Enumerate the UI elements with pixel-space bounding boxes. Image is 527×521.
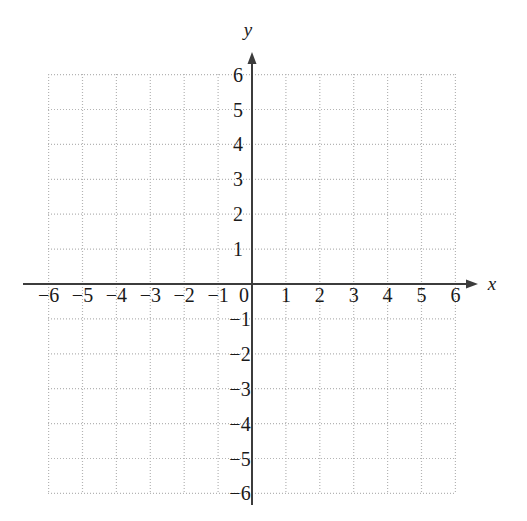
coordinate-plane-figure: −6−5−4−3−2−10123456 654321−1−2−3−4−5−6 x… xyxy=(0,0,527,521)
x-tick-label: 5 xyxy=(417,284,427,306)
coordinate-plane-canvas: −6−5−4−3−2−10123456 654321−1−2−3−4−5−6 x… xyxy=(0,0,527,521)
figure-background xyxy=(0,0,527,521)
y-tick-label: 6 xyxy=(233,64,243,86)
y-tick-label: −5 xyxy=(229,448,250,470)
x-tick-label: 3 xyxy=(349,284,359,306)
y-tick-label: −2 xyxy=(229,343,250,365)
x-tick-label: 2 xyxy=(315,284,325,306)
origin-tick-label: 0 xyxy=(239,284,249,306)
y-tick-label: 5 xyxy=(233,99,243,121)
x-axis-label: x xyxy=(487,273,497,294)
x-tick-label: 6 xyxy=(450,284,460,306)
y-tick-label: −1 xyxy=(229,308,250,330)
y-tick-label: 2 xyxy=(233,203,243,225)
y-tick-label: 3 xyxy=(233,168,243,190)
y-tick-label: 1 xyxy=(233,238,243,260)
y-tick-label: 4 xyxy=(233,133,243,155)
x-tick-label: −1 xyxy=(207,284,228,306)
x-tick-label: −4 xyxy=(106,284,127,306)
x-tick-label: 4 xyxy=(383,284,393,306)
x-tick-label: −5 xyxy=(72,284,93,306)
y-tick-label: −6 xyxy=(229,482,250,504)
x-tick-label: −3 xyxy=(140,284,161,306)
x-tick-label: 1 xyxy=(281,284,291,306)
y-tick-label: −3 xyxy=(229,378,250,400)
y-axis-label: y xyxy=(242,19,253,40)
x-tick-label: −6 xyxy=(38,284,59,306)
y-tick-label: −4 xyxy=(229,413,250,435)
x-tick-label: −2 xyxy=(174,284,195,306)
